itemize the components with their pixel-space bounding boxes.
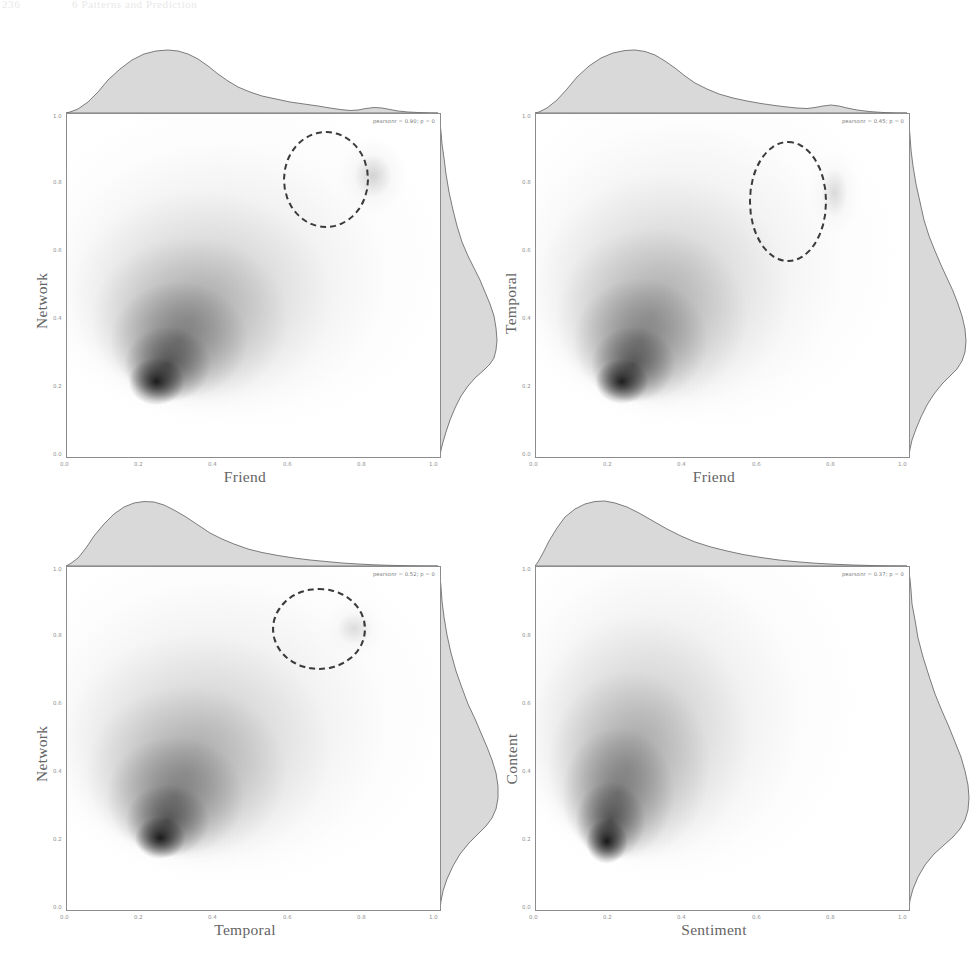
density-cloud (536, 567, 909, 910)
yaxis-label-network: Network (33, 239, 51, 329)
joint-axes-temporal-friend[interactable]: pearsonr = 0.45; p = 0 (535, 113, 910, 458)
joint-axes-content-sentiment[interactable]: pearsonr = 0.37; p = 0 (535, 566, 910, 911)
density-cloud (536, 114, 909, 457)
yaxis-label-content: Content (503, 690, 521, 785)
annotation-ellipse-outlier-cluster (749, 141, 828, 262)
panel-temporal-friend: pearsonr = 0.45; p = 0 0.0 0.2 0.4 0.6 0… (469, 0, 938, 500)
marginal-right-temporal (908, 114, 971, 456)
yaxis-label-temporal: Temporal (502, 234, 520, 334)
panel-network-friend: pearsonr = 0.90; p = 0 0.0 0.2 0.4 0.6 0… (0, 0, 469, 500)
pearson-stat-label: pearsonr = 0.45; p = 0 (842, 118, 904, 124)
pearson-stat-label: pearsonr = 0.37; p = 0 (842, 571, 904, 577)
pearson-stat-label: pearsonr = 0.90; p = 0 (373, 118, 435, 124)
marginal-top-friend (66, 45, 438, 114)
marginal-top-temporal (66, 498, 438, 567)
joint-axes-network-friend[interactable]: pearsonr = 0.90; p = 0 (66, 113, 441, 458)
panel-network-temporal: pearsonr = 0.52; p = 0 0.0 0.2 0.4 0.6 0… (0, 443, 469, 971)
marginal-top-sentiment (535, 498, 907, 567)
marginal-top-friend-2 (535, 45, 907, 114)
density-cloud (67, 114, 440, 457)
density-cloud (67, 567, 440, 910)
xaxis-label-temporal: Temporal (160, 921, 330, 939)
annotation-ellipse-outlier-cluster (283, 131, 369, 228)
marginal-right-content (908, 567, 971, 909)
annotation-circle-outlier-cluster (272, 588, 366, 671)
xaxis-label-sentiment: Sentiment (624, 921, 804, 939)
panel-content-sentiment: pearsonr = 0.37; p = 0 0.0 0.2 0.4 0.6 0… (469, 443, 938, 971)
yaxis-label-network-2: Network (33, 692, 51, 782)
pearson-stat-label: pearsonr = 0.52; p = 0 (373, 571, 435, 577)
joint-axes-network-temporal[interactable]: pearsonr = 0.52; p = 0 (66, 566, 441, 911)
